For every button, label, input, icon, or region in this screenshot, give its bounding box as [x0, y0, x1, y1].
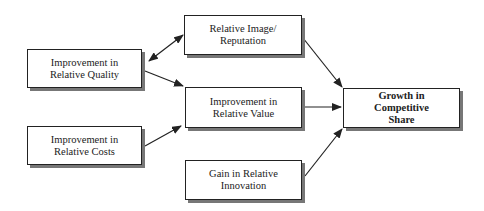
node-label-line: Relative Image/ [210, 23, 277, 35]
node-label-line: Improvement in [51, 134, 118, 146]
node-label-line: Improvement in [210, 96, 277, 108]
arrow-quality-value [145, 71, 183, 86]
arrow-image-growth [303, 38, 342, 87]
node-label-line: Competitive [374, 102, 429, 114]
arrow-costs-value [145, 126, 181, 146]
node-relative-innovation: Gain in RelativeInnovation [185, 160, 302, 200]
arrow-innovation-growth [305, 129, 342, 176]
node-label-line: Relative Value [210, 108, 277, 120]
node-relative-image: Relative Image/Reputation [184, 15, 302, 55]
node-relative-costs: Improvement inRelative Costs [27, 126, 142, 165]
node-label-line: Innovation [209, 180, 278, 192]
node-label-line: Improvement in [50, 57, 119, 69]
node-label-line: Relative Quality [50, 69, 119, 81]
node-relative-quality: Improvement inRelative Quality [27, 49, 142, 88]
node-label-line: Share [374, 114, 429, 126]
node-label-line: Growth in [374, 90, 429, 102]
arrow-quality-image [149, 35, 183, 61]
node-competitive-share: Growth inCompetitiveShare [343, 88, 460, 128]
node-relative-value: Improvement inRelative Value [185, 87, 302, 128]
node-label-line: Reputation [210, 35, 277, 47]
node-label-line: Relative Costs [51, 146, 118, 158]
node-label-line: Gain in Relative [209, 168, 278, 180]
